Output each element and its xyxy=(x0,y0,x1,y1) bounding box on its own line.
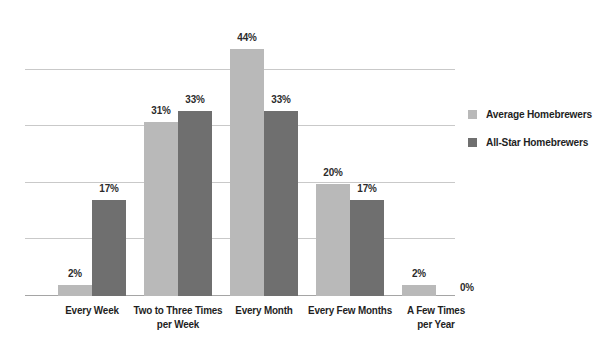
category-label: Every Few Months xyxy=(303,303,398,317)
category-label-line: Every Week xyxy=(45,303,140,317)
legend-item-label: All-Star Homebrewers xyxy=(486,136,588,148)
legend-swatch-icon xyxy=(468,110,477,119)
bar-value-label: 20% xyxy=(307,166,359,178)
bar-chart: 2%17%31%33%44%33%20%17%2%0% Every WeekTw… xyxy=(0,0,601,359)
bar xyxy=(230,49,264,296)
bar-value-label: 17% xyxy=(83,182,135,194)
category-label-line: per Week xyxy=(131,317,226,331)
bar xyxy=(264,111,298,296)
bar-value-label: 0% xyxy=(441,281,493,293)
bar-value-label: 33% xyxy=(169,93,221,105)
bar xyxy=(58,285,92,296)
legend-item-average-homebrewers: Average Homebrewers xyxy=(468,100,601,128)
category-label: Every Week xyxy=(45,303,140,317)
legend-item-all-star-homebrewers: All-Star Homebrewers xyxy=(468,128,601,156)
bar-value-label: 2% xyxy=(393,267,445,279)
bar xyxy=(178,111,212,296)
legend-swatch-icon xyxy=(468,138,477,147)
category-label: A Few Timesper Year xyxy=(389,303,484,331)
category-label-line: Two to Three Times xyxy=(131,303,226,317)
chart-legend: Average Homebrewers All-Star Homebrewers xyxy=(468,100,601,156)
bar-value-label: 44% xyxy=(221,31,273,43)
category-label-line: Every Few Months xyxy=(303,303,398,317)
category-label: Two to Three Timesper Week xyxy=(131,303,226,331)
category-label-line: A Few Times xyxy=(389,303,484,317)
category-label-line: per Year xyxy=(389,317,484,331)
bar xyxy=(350,200,384,296)
category-axis-labels: Every WeekTwo to Three Timesper WeekEver… xyxy=(25,303,455,353)
legend-item-label: Average Homebrewers xyxy=(486,108,592,120)
bar xyxy=(144,122,178,296)
bar-value-label: 33% xyxy=(255,93,307,105)
bar-value-label: 17% xyxy=(341,182,393,194)
category-label-line: Every Month xyxy=(217,303,312,317)
bar xyxy=(92,200,126,296)
bars-layer: 2%17%31%33%44%33%20%17%2%0% xyxy=(25,14,455,296)
category-label: Every Month xyxy=(217,303,312,317)
plot-area: 2%17%31%33%44%33%20%17%2%0% xyxy=(25,14,455,296)
bar xyxy=(402,285,436,296)
bar xyxy=(316,184,350,296)
